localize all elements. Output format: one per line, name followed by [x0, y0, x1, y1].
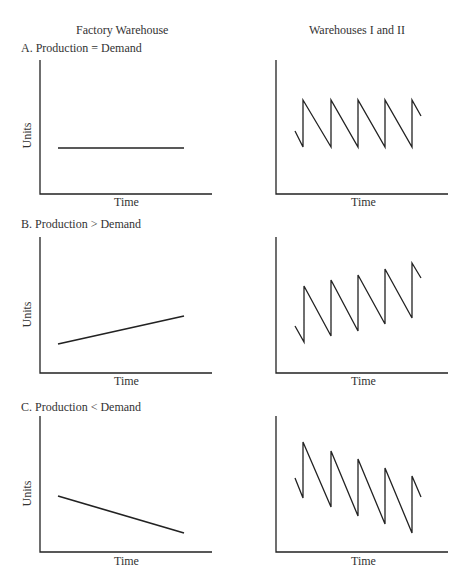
panel-b-warehouse-sawtooth: [295, 263, 421, 342]
panel-a-factory-xlabel: Time: [114, 195, 139, 210]
panel-a-warehouse-axes: [276, 60, 448, 194]
panel-c-warehouse-axes: [276, 416, 448, 552]
diagram-canvas: [0, 0, 463, 575]
panel-a-factory-axes: [40, 60, 212, 194]
panel-c-factory-xlabel: Time: [114, 554, 139, 569]
panel-c-factory-ylabel: Units: [20, 480, 35, 506]
panel-b-factory-xlabel: Time: [114, 374, 139, 389]
panel-a-warehouse-xlabel: Time: [351, 195, 376, 210]
panel-c-factory-line: [58, 496, 184, 533]
panel-c-factory-axes: [40, 416, 212, 552]
panel-a-warehouse-sawtooth: [295, 100, 421, 147]
panel-a-factory-ylabel: Units: [20, 122, 35, 148]
panel-b-factory-line: [58, 316, 184, 344]
panel-b-factory-ylabel: Units: [20, 301, 35, 327]
panel-b-warehouse-xlabel: Time: [351, 374, 376, 389]
panel-c-warehouse-sawtooth: [295, 442, 421, 533]
panel-b-factory-axes: [40, 237, 212, 373]
panel-b-warehouse-axes: [276, 237, 448, 373]
panel-c-warehouse-xlabel: Time: [351, 554, 376, 569]
